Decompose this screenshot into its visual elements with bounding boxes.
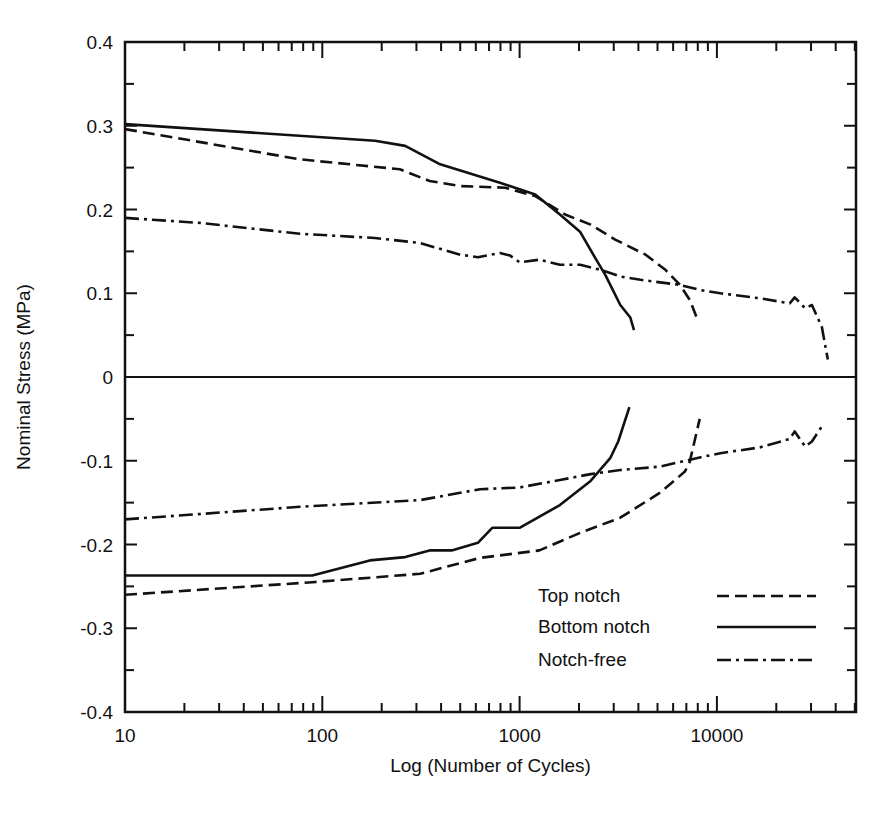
series-line-notch-free-tension: [125, 218, 828, 360]
y-tick-label: -0.4: [80, 702, 113, 723]
x-tick-label: 10: [114, 725, 135, 746]
series-line-bottom-notch-compression: [125, 407, 629, 575]
plot-marks: [125, 124, 828, 595]
y-tick-label: 0.1: [87, 283, 113, 304]
legend: Top notch Bottom notch Notch-free: [538, 585, 816, 670]
legend-label-notch-free: Notch-free: [538, 649, 627, 670]
y-tick-label: -0.2: [80, 535, 113, 556]
x-tick-label: 10000: [690, 725, 743, 746]
y-tick-label: 0.3: [87, 116, 113, 137]
y-tick-label: 0.4: [87, 32, 114, 53]
x-tick-label: 1000: [498, 725, 540, 746]
y-tick-label: -0.1: [80, 451, 113, 472]
y-tick-label: 0: [102, 367, 113, 388]
y-tick-label: -0.3: [80, 618, 113, 639]
series-line-bottom-notch-tension: [125, 124, 634, 330]
y-axis-title: Nominal Stress (MPa): [13, 284, 34, 470]
legend-label-bottom-notch: Bottom notch: [538, 616, 650, 637]
stress-cycles-chart: 10100100010000-0.4-0.3-0.2-0.100.10.20.3…: [0, 0, 885, 823]
x-axis-title: Log (Number of Cycles): [390, 755, 591, 776]
x-tick-label: 100: [306, 725, 338, 746]
series-line-notch-free-compression: [125, 426, 822, 519]
series-line-top-notch-compression: [125, 419, 700, 595]
legend-label-top-notch: Top notch: [538, 585, 620, 606]
y-tick-label: 0.2: [87, 200, 113, 221]
